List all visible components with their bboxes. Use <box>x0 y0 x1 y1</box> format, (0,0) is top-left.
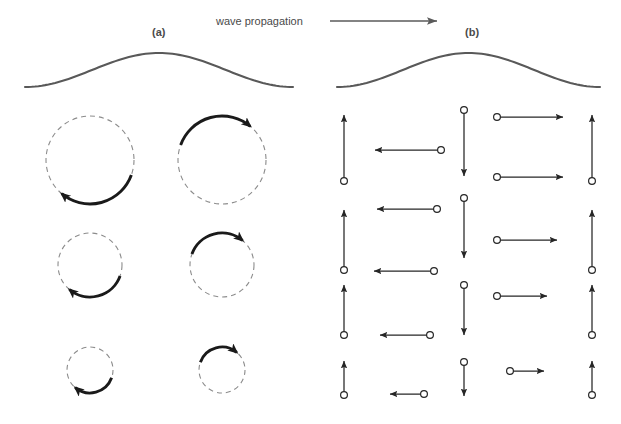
velocity-vector-right <box>507 368 544 375</box>
velocity-vector-down <box>461 195 468 258</box>
orbit-bottom <box>46 116 134 204</box>
velocity-vector-down <box>461 359 468 396</box>
velocity-vector-left <box>390 391 427 398</box>
orbit-row <box>46 116 266 204</box>
wave-surface-a <box>25 53 293 87</box>
vector-origin-marker <box>461 359 468 366</box>
velocity-vector-up <box>589 361 596 398</box>
orbit-bottom <box>67 347 113 393</box>
orbit-direction-arrow <box>62 175 132 204</box>
vector-origin-marker <box>494 293 501 300</box>
vector-origin-marker <box>507 368 514 375</box>
panel-label-b: (b) <box>465 26 479 38</box>
vector-origin-marker <box>461 107 468 114</box>
figure-canvas: wave propagation (a)(b) <box>0 0 621 424</box>
orbit-top <box>199 347 245 393</box>
velocity-vector-right <box>494 174 563 181</box>
velocity-vector-left <box>374 268 437 275</box>
vector-origin-marker <box>494 114 501 121</box>
velocity-vector-left <box>377 206 440 213</box>
wave-propagation-label: wave propagation <box>215 15 303 27</box>
panel-a: (a) <box>25 26 293 393</box>
velocity-vector-up <box>589 115 596 184</box>
vector-origin-marker <box>461 195 468 202</box>
velocity-vector-up <box>341 115 348 184</box>
vector-origin-marker <box>461 282 468 289</box>
orbit-direction-arrow <box>200 347 236 362</box>
vector-origin-marker <box>341 392 348 399</box>
vector-row <box>341 107 596 185</box>
wave-propagation-header: wave propagation <box>215 15 437 27</box>
panels-group: (a)(b) <box>25 26 600 398</box>
orbit-direction-arrow <box>75 378 111 393</box>
velocity-vector-right <box>494 237 557 244</box>
orbit-row <box>58 233 254 297</box>
vector-origin-marker <box>438 147 445 154</box>
velocity-vector-right <box>494 114 563 121</box>
vector-origin-marker <box>589 392 596 399</box>
orbit-direction-arrow <box>69 276 120 297</box>
vector-row <box>341 282 596 339</box>
velocity-vector-up <box>341 361 348 398</box>
orbit-direction-arrow <box>192 233 243 254</box>
vector-origin-marker <box>589 267 596 274</box>
velocity-vector-up <box>341 285 348 338</box>
panel-b: (b) <box>337 26 600 398</box>
vector-row <box>341 195 596 275</box>
vector-row <box>341 359 596 399</box>
orbit-top <box>190 233 254 297</box>
velocity-vector-up <box>589 285 596 338</box>
velocity-vector-right <box>494 293 547 300</box>
vector-origin-marker <box>589 332 596 339</box>
vector-origin-marker <box>494 174 501 181</box>
vector-origin-marker <box>494 237 501 244</box>
vector-origin-marker <box>341 267 348 274</box>
vector-origin-marker <box>589 178 596 185</box>
vector-origin-marker <box>431 268 438 275</box>
panel-label-a: (a) <box>152 26 166 38</box>
orbit-top <box>178 116 266 204</box>
velocity-vector-up <box>589 210 596 273</box>
velocity-vector-down <box>461 282 468 335</box>
velocity-vector-left <box>380 332 433 339</box>
velocity-vector-down <box>461 107 468 176</box>
vector-origin-marker <box>341 178 348 185</box>
vector-origin-marker <box>427 332 434 339</box>
orbit-bottom <box>58 233 122 297</box>
wave-surface-b <box>337 53 600 87</box>
orbit-direction-arrow <box>181 116 251 145</box>
vector-origin-marker <box>434 206 441 213</box>
velocity-vector-up <box>341 210 348 273</box>
velocity-vector-left <box>375 147 444 154</box>
vector-origin-marker <box>421 391 428 398</box>
orbit-row <box>67 347 245 393</box>
vector-origin-marker <box>341 332 348 339</box>
wave-motion-figure: wave propagation (a)(b) <box>0 0 621 424</box>
